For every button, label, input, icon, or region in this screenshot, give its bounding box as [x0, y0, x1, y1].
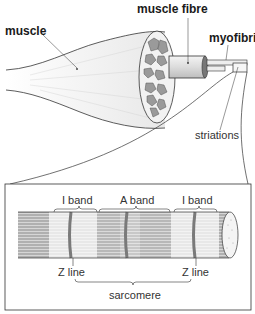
label-striations: striations	[195, 130, 239, 141]
label-z-line-left: Z line	[58, 267, 85, 278]
label-a-band: A band	[120, 195, 154, 206]
label-i-band-right: I band	[182, 195, 213, 206]
label-i-band-left: I band	[62, 195, 93, 206]
label-sarcomere: sarcomere	[109, 290, 161, 301]
label-z-line-right: Z line	[182, 267, 209, 278]
muscle-leader	[0, 0, 255, 314]
label-myofibril: myofibril	[209, 32, 255, 44]
label-muscle-fibre: muscle fibre	[137, 3, 208, 15]
